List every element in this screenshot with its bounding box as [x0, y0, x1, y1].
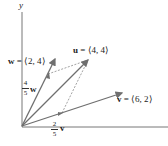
label-w-value: = ⟨2, 4⟩ [15, 56, 46, 66]
label-v-value: = ⟨6, 2⟩ [122, 94, 153, 104]
fraction-two-fifths: 2 5 [51, 121, 58, 138]
label-u-value: = ⟨4, 4⟩ [78, 45, 109, 55]
fraction-denominator: 5 [53, 130, 57, 138]
label-w: w = ⟨2, 4⟩ [8, 57, 46, 66]
label-v: v = ⟨6, 2⟩ [117, 95, 153, 104]
fraction-four-fifths: 4 5 [22, 80, 29, 97]
vector-diagram [0, 0, 168, 146]
fraction-denominator: 5 [24, 89, 28, 97]
label-scaled-v: v [60, 124, 65, 133]
label-u: u = ⟨4, 4⟩ [73, 46, 109, 55]
fraction-numerator: 4 [24, 79, 28, 87]
y-axis-label: y [19, 1, 23, 10]
fraction-numerator: 2 [53, 120, 57, 128]
label-scaled-w: w [30, 85, 37, 94]
vector-v [22, 93, 122, 126]
